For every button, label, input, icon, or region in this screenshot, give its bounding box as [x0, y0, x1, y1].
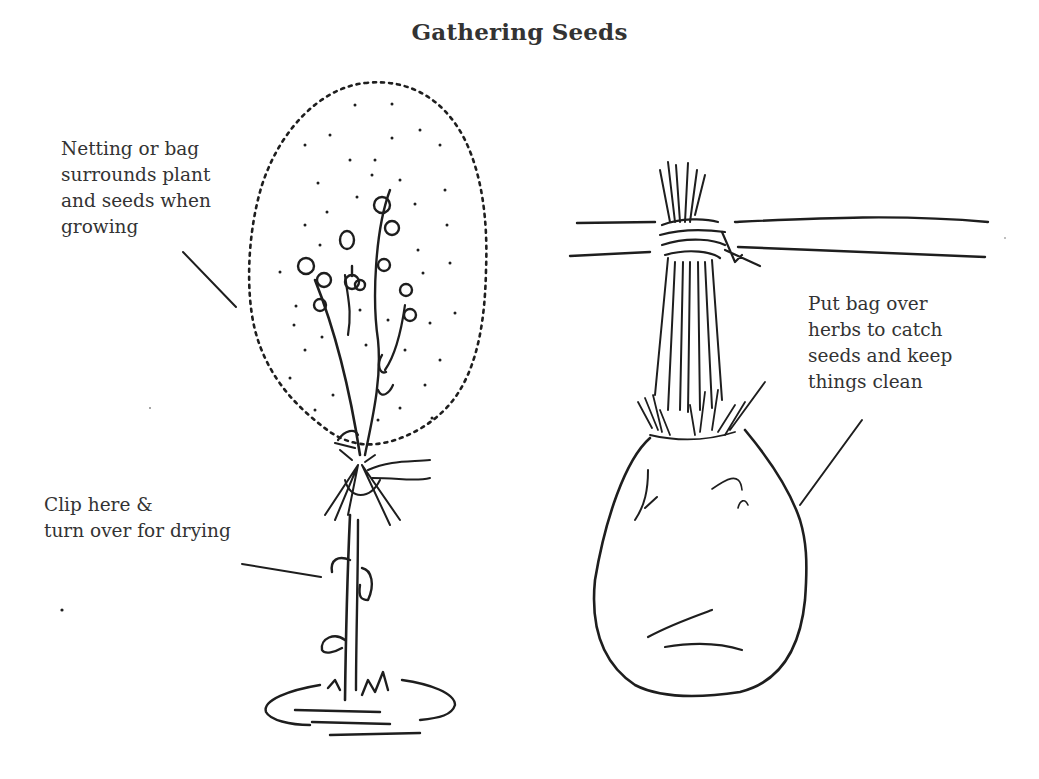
illustration-drawing	[0, 0, 1039, 779]
leader-line-bag	[800, 420, 862, 505]
leader-line-clip	[242, 564, 321, 577]
leader-line-netting	[183, 252, 236, 307]
netting-tie	[325, 450, 430, 525]
bundle-stems	[655, 258, 722, 412]
netting-speckles	[279, 103, 457, 422]
string-binding	[660, 219, 760, 266]
ground-base	[266, 672, 455, 735]
hanging-bundle-figure	[570, 162, 988, 696]
bag-outline	[594, 430, 806, 696]
netted-plant-figure	[183, 82, 486, 735]
